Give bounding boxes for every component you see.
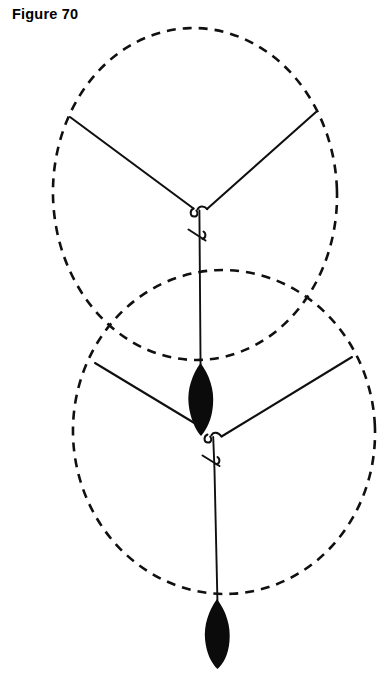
upper-barb [189, 230, 206, 241]
upper-weight [188, 363, 213, 436]
lower-canopy-outline [65, 262, 384, 601]
upper-riser-line [199, 211, 200, 371]
upper-canopy-outline [47, 23, 342, 365]
figure-page: Figure 70 [0, 0, 389, 676]
upper-bridle-arm-right [207, 112, 316, 209]
figure-drawing [0, 0, 389, 676]
lower-bridle-arm-left [95, 363, 196, 424]
lower-weight [205, 599, 230, 669]
upper-bridle-arm-left [70, 117, 194, 209]
figure-caption: Figure 70 [12, 6, 78, 23]
lower-bridle-arm-right [222, 357, 353, 437]
lower-barb [203, 456, 220, 467]
